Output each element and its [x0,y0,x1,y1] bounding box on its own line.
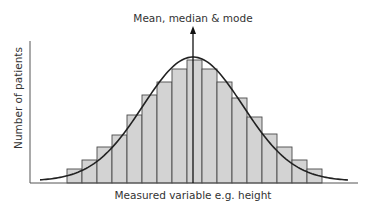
normal-distribution-chart: Mean, median & mode Measured variable e.… [0,0,377,211]
histogram-bar [97,147,112,183]
histogram-bar [172,69,187,183]
x-axis-label: Measured variable e.g. height [115,189,272,201]
histogram-bar [217,82,232,183]
histogram-bars [67,60,322,183]
histogram-bar [142,95,157,183]
y-axis-label: Number of patients [12,47,24,149]
arrow-up-icon [190,26,196,34]
mean-median-mode-label: Mean, median & mode [133,12,252,24]
histogram-bar [247,117,262,183]
histogram-bar [187,60,202,183]
histogram-bar [157,82,172,183]
histogram-bar [202,69,217,183]
histogram-bar [112,135,127,183]
histogram-bar [232,98,247,183]
